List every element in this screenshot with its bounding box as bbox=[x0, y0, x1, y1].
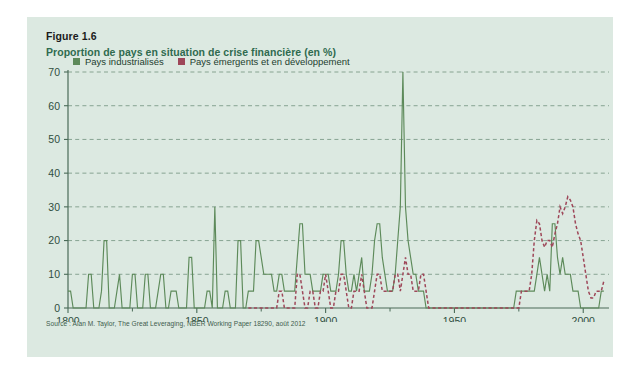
y-tick-label: 40 bbox=[48, 167, 60, 179]
series-line-emerging bbox=[248, 197, 604, 308]
legend-item-emerging: Pays émergents et en développement bbox=[178, 57, 350, 67]
figure-label: Figure 1.6 bbox=[46, 30, 97, 42]
axis-ticks bbox=[64, 72, 583, 313]
y-tick-label: 30 bbox=[48, 201, 60, 213]
data-series bbox=[68, 72, 604, 308]
gridlines bbox=[68, 72, 609, 274]
y-tick-label: 50 bbox=[48, 133, 60, 145]
source-note: Source : Alan M. Taylor, The Great Lever… bbox=[46, 320, 306, 327]
x-tick-label: 2000 bbox=[572, 315, 596, 322]
legend-swatch-emerging bbox=[178, 58, 185, 65]
y-tick-label: 60 bbox=[48, 100, 60, 112]
y-tick-label: 20 bbox=[48, 234, 60, 246]
y-tick-label: 10 bbox=[48, 268, 60, 280]
chart-legend: Pays industrialisés Pays émergents et en… bbox=[73, 57, 350, 67]
series-line-industrial bbox=[68, 72, 604, 308]
legend-label-emerging: Pays émergents et en développement bbox=[190, 57, 350, 67]
figure-panel: Figure 1.6 Proportion de pays en situati… bbox=[27, 17, 613, 357]
legend-label-industrial: Pays industrialisés bbox=[85, 57, 164, 67]
x-tick-label: 1900 bbox=[314, 315, 338, 322]
figure-container: Figure 1.6 Proportion de pays en situati… bbox=[0, 0, 623, 367]
x-tick-label: 1950 bbox=[443, 315, 467, 322]
y-axis-tick-labels: 010203040506070 bbox=[48, 66, 60, 314]
legend-item-industrial: Pays industrialisés bbox=[73, 57, 164, 67]
legend-swatch-industrial bbox=[73, 58, 80, 65]
y-tick-label: 70 bbox=[48, 66, 60, 78]
y-tick-label: 0 bbox=[54, 302, 60, 314]
plot-area: 010203040506070 18001850190019502000 bbox=[27, 62, 613, 322]
chart-svg: 010203040506070 18001850190019502000 bbox=[27, 62, 613, 322]
